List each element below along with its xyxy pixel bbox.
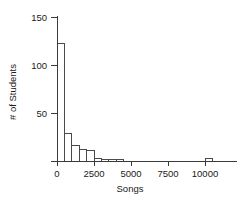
y-tick-label: 50 <box>36 108 47 119</box>
histogram-plot: 50100150 025005000750010000 Songs # of S… <box>0 0 243 201</box>
y-axis-title: # of Students <box>7 64 18 120</box>
bars-group <box>57 44 212 161</box>
histogram-bar <box>87 150 94 161</box>
x-tick-label: 7500 <box>157 168 178 179</box>
histogram-bar <box>72 146 79 161</box>
x-axis-title: Songs <box>117 183 144 194</box>
x-axis-ticks: 025005000750010000 <box>54 161 218 179</box>
x-tick-label: 5000 <box>120 168 141 179</box>
x-tick-label: 10000 <box>192 168 218 179</box>
x-tick-label: 0 <box>54 168 59 179</box>
y-axis-ticks: 50100150 <box>31 12 57 119</box>
histogram-bar <box>79 149 86 161</box>
y-tick-label: 100 <box>31 60 47 71</box>
y-tick-label: 150 <box>31 12 47 23</box>
histogram-bar <box>64 133 71 161</box>
histogram-bar <box>57 44 64 161</box>
axes-group <box>51 16 237 161</box>
x-tick-label: 2500 <box>83 168 104 179</box>
histogram-figure: 50100150 025005000750010000 Songs # of S… <box>0 0 243 201</box>
